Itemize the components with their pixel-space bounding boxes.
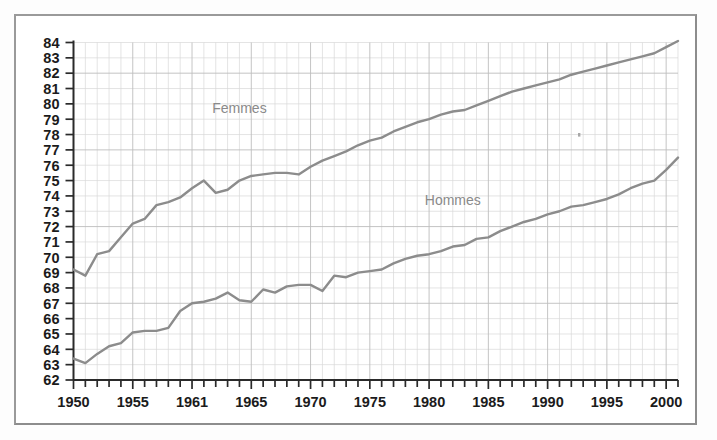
x-tick-label: 1990 xyxy=(531,394,563,410)
y-tick-label: 84 xyxy=(43,35,59,51)
y-tick-label: 68 xyxy=(43,280,59,296)
data-series-lines xyxy=(74,41,679,363)
x-tick-label: 1980 xyxy=(413,394,445,410)
image-speck-artifact xyxy=(578,133,580,137)
y-tick-label: 79 xyxy=(43,112,59,128)
life-expectancy-line-chart: 6263646566676869707172737475767778798081… xyxy=(0,0,717,440)
y-tick-label: 76 xyxy=(43,158,59,174)
x-tick-label: 1970 xyxy=(294,394,326,410)
y-tick-label: 83 xyxy=(43,50,59,66)
x-axis-tick-labels: 1950195519611965197019751980198519901995… xyxy=(57,394,682,410)
y-tick-label: 80 xyxy=(43,96,59,112)
y-tick-label: 67 xyxy=(43,296,59,312)
y-tick-label: 73 xyxy=(43,204,59,220)
figure-container: 6263646566676869707172737475767778798081… xyxy=(0,0,717,440)
y-tick-label: 72 xyxy=(43,219,59,235)
series-label-femmes: Femmes xyxy=(212,100,266,116)
series-line-hommes xyxy=(74,158,679,364)
y-tick-label: 62 xyxy=(43,372,59,388)
series-line-femmes xyxy=(74,41,679,276)
series-inline-labels: FemmesHommes xyxy=(212,100,481,208)
y-tick-label: 74 xyxy=(43,188,59,204)
y-tick-label: 69 xyxy=(43,265,59,281)
x-tick-label: 2000 xyxy=(650,394,682,410)
y-axis-tick-labels: 6263646566676869707172737475767778798081… xyxy=(43,35,59,389)
y-tick-label: 71 xyxy=(43,234,59,250)
y-tick-label: 64 xyxy=(43,342,59,358)
x-tick-label: 1985 xyxy=(472,394,504,410)
x-tick-label: 1955 xyxy=(117,394,149,410)
y-tick-label: 66 xyxy=(43,311,59,327)
y-tick-label: 75 xyxy=(43,173,59,189)
y-tick-label: 63 xyxy=(43,357,59,373)
y-axis-ticks xyxy=(66,43,74,381)
y-tick-label: 65 xyxy=(43,326,59,342)
y-tick-label: 81 xyxy=(43,81,59,97)
x-tick-label: 1995 xyxy=(591,394,623,410)
y-tick-label: 78 xyxy=(43,127,59,143)
series-label-hommes: Hommes xyxy=(425,192,481,208)
x-tick-label: 1961 xyxy=(176,394,208,410)
y-tick-label: 82 xyxy=(43,65,59,81)
y-tick-label: 77 xyxy=(43,142,59,158)
x-tick-label: 1965 xyxy=(235,394,267,410)
x-tick-label: 1950 xyxy=(57,394,89,410)
x-axis-ticks xyxy=(74,380,679,389)
y-tick-label: 70 xyxy=(43,250,59,266)
x-tick-label: 1975 xyxy=(354,394,386,410)
